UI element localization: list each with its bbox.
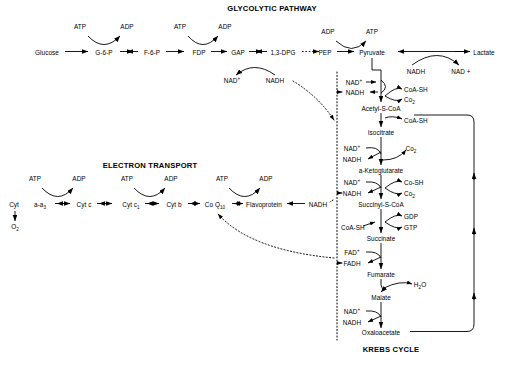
lbl-nadplus-lactate: NAD + — [451, 69, 470, 75]
lbl-nadh-iso: NADH — [343, 157, 361, 163]
lbl-gtp: GTP — [404, 225, 417, 231]
pathway-arrows-layer — [0, 0, 507, 368]
lbl-nadh-lactate: NADH — [407, 69, 425, 75]
lbl-pep: PEP — [319, 50, 332, 56]
lbl-g6p: G-6-P — [95, 50, 112, 56]
lbl-atp-et-3: ATP — [216, 176, 228, 182]
lbl-oxaloacetate: Oxaloacetate — [362, 330, 400, 336]
electron-transport-title: ELECTRON TRANSPORT — [103, 162, 198, 170]
lbl-atp-2: ATP — [174, 24, 186, 30]
lbl-nad-kg: NAD+ — [344, 180, 360, 186]
lbl-cyt-c1: Cyt c1 — [122, 202, 139, 208]
lbl-nadh-pyr: NADH — [346, 90, 364, 96]
lbl-nad-mal: NAD+ — [344, 309, 360, 315]
lbl-adp-et-1: ADP — [72, 176, 85, 182]
lbl-flavoprotein: Flavoprotein — [246, 202, 282, 208]
lbl-lactate: Lactate — [473, 50, 494, 56]
lbl-nad-pyr: NAD+ — [346, 80, 362, 86]
lbl-gap: GAP — [231, 50, 245, 56]
lbl-cyt-c: Cyt c — [77, 202, 92, 208]
lbl-nadh-kg: NADH — [343, 191, 361, 197]
lbl-cyt-b: Cyt b — [166, 202, 181, 208]
lbl-nadh-glyc: NADH — [266, 78, 284, 84]
glycolysis-title: GLYCOLYTIC PATHWAY — [227, 5, 316, 13]
lbl-nad-iso: NAD+ — [344, 146, 360, 152]
lbl-coash-1: CoA-SH — [404, 87, 428, 93]
lbl-nad-glyc: NAD+ — [224, 78, 240, 84]
lbl-malate: Malate — [371, 295, 390, 301]
lbl-co2-1: Co2 — [404, 97, 415, 103]
lbl-acetyl-s-coa: Acetyl-S-CoA — [362, 106, 401, 112]
lbl-f6p: F-6-P — [144, 50, 160, 56]
lbl-glucose: Glucose — [35, 50, 59, 56]
lbl-fumarate: Fumarate — [367, 272, 395, 278]
lbl-nadh-et: NADH — [309, 202, 327, 208]
lbl-gdp: GDP — [404, 214, 418, 220]
pathway-diagram-canvas: GLYCOLYTIC PATHWAY ELECTRON TRANSPORT KR… — [0, 0, 507, 368]
lbl-adp-et-3: ADP — [259, 176, 272, 182]
lbl-adp-et-2: ADP — [164, 176, 177, 182]
lbl-cyt-aa3: a-a3 — [34, 202, 46, 208]
lbl-co2-2: Co2 — [406, 146, 417, 152]
lbl-atp-1: ATP — [74, 24, 86, 30]
lbl-o2: O2 — [11, 224, 19, 230]
lbl-ketoglutarate: a-Ketoglutarate — [359, 168, 403, 174]
lbl-co2-3: Co2 — [404, 191, 415, 197]
lbl-cosh: Co-SH — [404, 180, 423, 186]
lbl-h2o: H2O — [414, 282, 426, 288]
lbl-13dpg: 1,3-DPG — [270, 50, 295, 56]
lbl-fadh: FADH — [343, 261, 360, 267]
lbl-adp-3: ADP — [321, 29, 334, 35]
lbl-atp-3: ATP — [366, 29, 378, 35]
lbl-atp-et-2: ATP — [121, 176, 133, 182]
lbl-fad: FAD+ — [344, 250, 359, 256]
lbl-nadh-mal: NADH — [343, 320, 361, 326]
lbl-succinyl: Succinyl-S-CoA — [358, 202, 403, 208]
lbl-fdp: FDP — [193, 50, 206, 56]
lbl-succinate: Succinate — [367, 236, 396, 242]
krebs-cycle-title: KREBS CYCLE — [363, 346, 420, 354]
lbl-cyt: Cyt — [9, 202, 19, 208]
lbl-pyruvate: Pyruvate — [359, 50, 385, 56]
lbl-coq10: Co Q10 — [205, 202, 225, 208]
lbl-isocitrate: Isocitrate — [368, 130, 394, 136]
lbl-adp-1: ADP — [120, 24, 133, 30]
lbl-coash-3: CoA-SH — [341, 225, 365, 231]
lbl-coash-2: CoA-SH — [404, 118, 428, 124]
lbl-adp-2: ADP — [218, 24, 231, 30]
lbl-atp-et-1: ATP — [29, 176, 41, 182]
